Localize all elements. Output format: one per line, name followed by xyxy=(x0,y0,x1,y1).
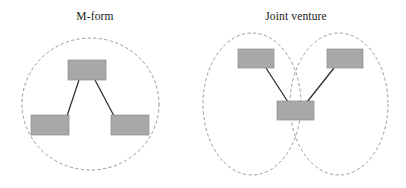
parent-right-unit xyxy=(327,49,363,68)
m-form-node-group xyxy=(31,60,149,135)
joint-venture-link-group xyxy=(266,68,334,102)
panel-title-m-form: M-form xyxy=(0,9,190,23)
organizational-form-diagram: M-form Joint venture xyxy=(0,0,406,188)
parent-to-division-left xyxy=(67,80,79,116)
parent-unit xyxy=(68,60,106,80)
joint-venture-unit xyxy=(277,101,314,120)
division-right xyxy=(111,115,149,135)
division-left xyxy=(31,115,69,135)
parent-to-division-right xyxy=(95,80,114,116)
panel-m-form xyxy=(22,38,159,170)
panel-joint-venture xyxy=(203,33,388,175)
firm-boundary xyxy=(22,38,159,170)
diagram-canvas xyxy=(0,0,406,188)
m-form-link-group xyxy=(67,80,114,116)
panel-title-joint-venture: Joint venture xyxy=(198,9,394,23)
parent-left-unit xyxy=(238,49,274,68)
m-form-boundary-group xyxy=(22,38,159,170)
parent-left-to-jv xyxy=(266,68,288,102)
parent-right-to-jv xyxy=(307,68,334,102)
